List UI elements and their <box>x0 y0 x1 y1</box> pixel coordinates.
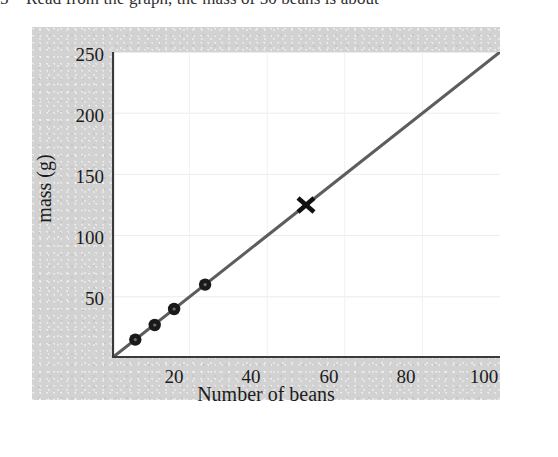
cross-marker-icon <box>298 198 314 212</box>
question-number: 5 <box>0 0 26 9</box>
y-tick-label-150: 150 <box>40 167 104 186</box>
question-line: 5Read from the graph, the mass of 50 bea… <box>0 0 558 11</box>
question-text: Read from the graph, the mass of 50 bean… <box>26 0 379 8</box>
plot-area <box>112 52 500 358</box>
y-tick-label-200: 200 <box>40 106 104 125</box>
figure-panel: mass (g) 250 200 150 100 50 20 40 60 80 … <box>32 27 500 400</box>
gridlines <box>112 53 500 297</box>
y-tick-label-50: 50 <box>40 289 104 308</box>
y-tick-label-100: 100 <box>40 228 104 247</box>
x-axis-title: Number of beans <box>32 383 500 406</box>
line-chart <box>112 52 500 358</box>
y-tick-label-250: 250 <box>40 45 104 64</box>
